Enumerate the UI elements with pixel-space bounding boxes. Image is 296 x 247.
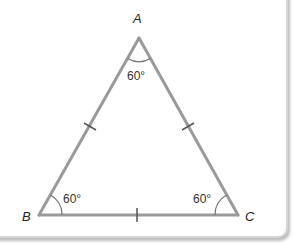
equal-side-ticks (84, 123, 194, 222)
angle-arc-c (215, 195, 227, 215)
angle-label-a: 60° (127, 69, 145, 83)
vertex-label-b: B (22, 209, 31, 224)
angle-label-c: 60° (193, 192, 211, 206)
angle-arc-a (128, 59, 151, 62)
vertex-label-a: A (132, 11, 142, 26)
angle-arc-b (51, 195, 63, 215)
triangle-diagram: A B C 60° 60° 60° (0, 0, 296, 247)
vertex-label-c: C (245, 209, 255, 224)
triangle (39, 38, 238, 215)
angle-label-b: 60° (63, 192, 81, 206)
